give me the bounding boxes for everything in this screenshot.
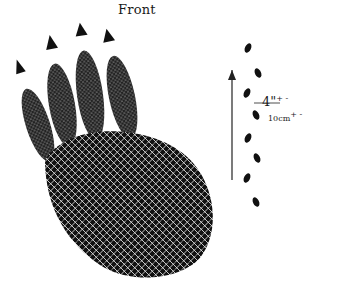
measurement-metric: 10cm+ - [268, 110, 302, 123]
arrow-head [228, 70, 236, 80]
front-paw-print-illustration [0, 0, 230, 284]
palm [45, 131, 213, 277]
measurement-imperial: 4"+ - [262, 94, 288, 109]
trackway-illustration [220, 30, 280, 230]
